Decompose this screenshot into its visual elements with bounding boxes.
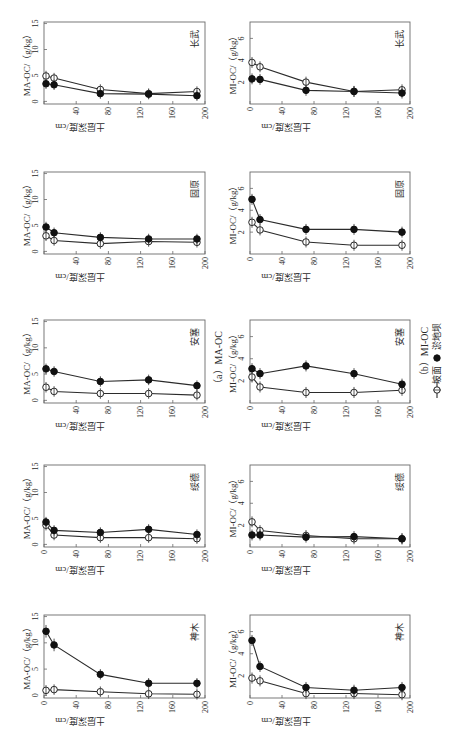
series-line-check-dam (252, 535, 402, 539)
filled-circle-icon (434, 355, 440, 361)
legend-item-slope: 坡面 (431, 366, 442, 398)
data-point-check-dam (257, 370, 264, 377)
x-tick-label: 200 (201, 701, 210, 713)
x-axis-title: 土层深度/cm (55, 565, 105, 576)
x-tick-label: 40 (72, 257, 81, 265)
series-line-check-dam (252, 640, 402, 690)
series-line-slope (46, 690, 197, 695)
soil-organic-carbon-figure: 051015MA-OC/（g/kg）4080120160200土层深度/cm长武… (0, 0, 452, 753)
x-tick-label: 160 (168, 550, 177, 562)
chart-panel-mi-oc: 246MI-OC/（g/kg）04080120160200土层深度/cm神木 (228, 615, 415, 727)
y-axis-title: MA-OC/（g/kg） (22, 328, 32, 395)
x-tick-label: 120 (342, 406, 351, 418)
chart-panel-ma-oc: 051015MA-OC/（g/kg）04080120160200土层深度/cm神… (22, 613, 210, 727)
station-label: 绥德 (189, 473, 200, 491)
x-axis-title: 土层深度/cm (55, 122, 105, 133)
x-axis-title: 土层深度/cm (261, 122, 311, 133)
y-tick-label: 4 (238, 58, 247, 62)
data-point-check-dam (257, 216, 264, 223)
series-line-slope (252, 522, 402, 539)
x-axis-title: 土层深度/cm (55, 716, 105, 727)
x-tick-label: 120 (342, 107, 351, 119)
x-tick-label: 40 (278, 406, 287, 414)
plot-frame (44, 615, 205, 698)
data-point-check-dam (194, 680, 201, 687)
data-point-check-dam (257, 76, 264, 83)
data-point-check-dam (194, 92, 201, 99)
chart-panel-mi-oc: 246MI-OC/（g/kg）04080120160200土层深度/cm绥德 (228, 465, 415, 576)
chart-panel-ma-oc: 051015MA-OC/（g/kg）4080120160200土层深度/cm固原 (22, 170, 210, 283)
x-tick-label: 120 (136, 550, 145, 562)
data-point-check-dam (351, 88, 358, 95)
x-axis-title: 土层深度/cm (261, 716, 311, 727)
y-tick-label: 2 (238, 674, 247, 678)
x-tick-label: 200 (201, 107, 210, 119)
legend-item-check-dam: 淤地坝 (431, 323, 442, 362)
x-tick-label: 200 (406, 406, 415, 418)
chart-panel-mi-oc: 246MI-OC/（g/kg）04080120160200土层深度/cm固原 (228, 172, 415, 283)
x-tick-label: 200 (201, 550, 210, 562)
x-tick-label: 160 (168, 406, 177, 418)
y-tick-label: 15 (32, 613, 41, 621)
y-tick-label: 6 (238, 630, 247, 634)
legend: 坡面 淤地坝 (431, 323, 442, 399)
x-tick-label: 80 (104, 257, 113, 265)
x-tick-label: 80 (310, 257, 319, 265)
data-point-check-dam (43, 80, 50, 87)
series-line-slope (252, 678, 402, 695)
data-point-check-dam (399, 90, 406, 97)
y-tick-label: 0 (32, 99, 41, 103)
x-tick-label: 200 (406, 701, 415, 713)
y-tick-label: 2 (238, 523, 247, 527)
y-tick-label: 5 (32, 73, 41, 77)
y-tick-label: 6 (238, 186, 247, 190)
series-line-slope (46, 236, 197, 244)
data-point-check-dam (194, 531, 201, 538)
x-tick-label: 120 (342, 550, 351, 562)
x-axis-title: 土层深度/cm (261, 421, 311, 432)
data-point-check-dam (51, 527, 58, 534)
y-tick-label: 4 (238, 652, 247, 656)
data-point-check-dam (145, 377, 152, 384)
station-label: 安塞 (394, 328, 405, 346)
x-tick-label: 200 (406, 107, 415, 119)
data-point-check-dam (303, 87, 310, 94)
y-tick-label: 0 (32, 249, 41, 253)
x-tick-label: 0 (246, 550, 255, 554)
x-tick-label: 80 (104, 107, 113, 115)
series-line-slope (46, 387, 197, 395)
data-point-check-dam (303, 534, 310, 541)
y-tick-label: 6 (238, 479, 247, 483)
y-tick-label: 10 (32, 46, 41, 54)
data-point-check-dam (43, 366, 50, 373)
y-tick-label: 10 (32, 489, 41, 497)
chart-panel-ma-oc: 051015MA-OC/（g/kg）04080120160200土层深度/cm绥… (22, 463, 210, 576)
chart-panel-ma-oc: 051015MA-OC/（g/kg）4080120160200土层深度/cm安塞 (22, 318, 210, 432)
station-label: 安塞 (189, 328, 200, 346)
y-tick-label: 10 (32, 639, 41, 647)
y-tick-label: 2 (238, 230, 247, 234)
y-tick-label: 6 (238, 36, 247, 40)
x-tick-label: 80 (310, 701, 319, 709)
x-tick-label: 0 (40, 701, 49, 705)
data-point-check-dam (51, 642, 58, 649)
y-axis-title: MA-OC/（g/kg） (22, 473, 32, 540)
series-line-slope (252, 62, 402, 91)
data-point-check-dam (399, 536, 406, 543)
x-tick-label: 40 (278, 550, 287, 558)
data-point-check-dam (257, 663, 264, 670)
station-label: 神木 (189, 623, 200, 641)
data-point-check-dam (399, 684, 406, 691)
station-label: 长武 (394, 30, 405, 48)
x-tick-label: 80 (310, 406, 319, 414)
series-line-slope (46, 76, 197, 94)
plot-frame (250, 22, 410, 104)
x-tick-label: 0 (246, 257, 255, 261)
x-tick-label: 80 (104, 406, 113, 414)
chart-panel-mi-oc: 246MI-OC/（g/kg）04080120160200土层深度/cm长武 (228, 22, 415, 133)
data-point-check-dam (145, 526, 152, 533)
data-point-check-dam (194, 382, 201, 389)
station-label: 神木 (394, 623, 405, 641)
data-point-check-dam (145, 91, 152, 98)
x-tick-label: 200 (201, 257, 210, 269)
